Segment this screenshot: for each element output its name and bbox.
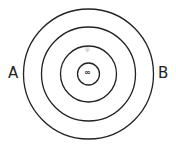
center-mark: ∞: [84, 69, 91, 77]
faint-mark: ψ: [85, 46, 90, 53]
label-a: A: [8, 66, 18, 81]
label-b: B: [158, 66, 168, 81]
